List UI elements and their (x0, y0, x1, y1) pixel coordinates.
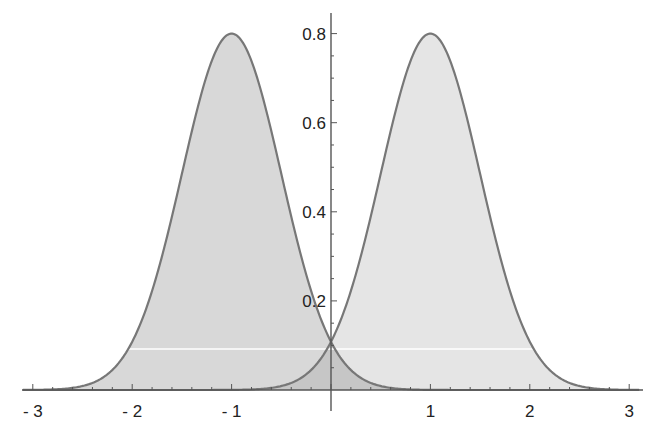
chart: - 3- 2- 1123 0.20.40.60.8 (0, 0, 665, 440)
x-tick-label: - 1 (222, 402, 242, 421)
y-tick-label: 0.2 (302, 292, 326, 311)
y-tick-label: 0.6 (302, 114, 326, 133)
y-tick-label: 0.8 (302, 25, 326, 44)
x-tick-label: 1 (426, 402, 435, 421)
x-tick-label: - 2 (122, 402, 142, 421)
x-tick-label: - 3 (23, 402, 43, 421)
x-tick-label: 3 (624, 402, 633, 421)
x-tick-label: 2 (525, 402, 534, 421)
y-tick-label: 0.4 (302, 203, 326, 222)
